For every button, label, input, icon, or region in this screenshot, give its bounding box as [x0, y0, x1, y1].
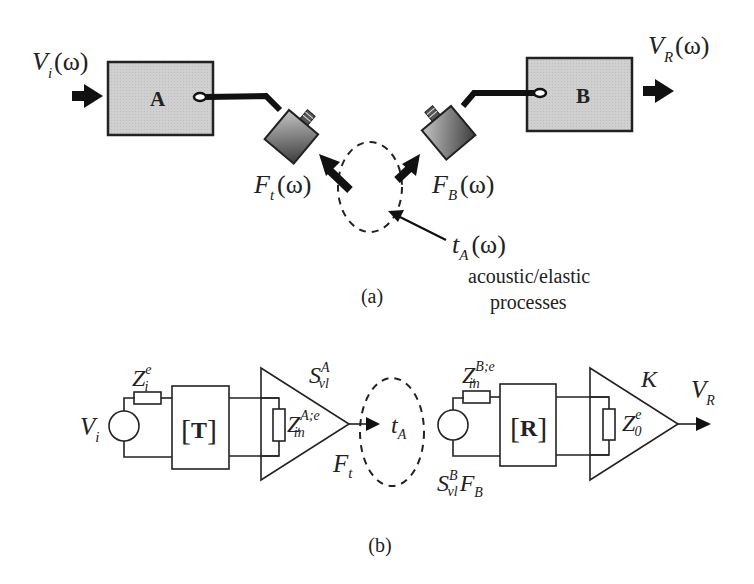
source-vi-label: Vi: [80, 413, 99, 445]
r-matrix-label: [R]: [510, 411, 547, 444]
impedance-z0-label: Ze0: [622, 407, 642, 439]
transfer-pointer-arrow-icon: [388, 210, 446, 240]
force-ft-label: Ft: [332, 450, 353, 481]
force-t-label: Ft(ω): [253, 170, 312, 203]
impedance-zi-label: Zei: [132, 362, 152, 394]
panel-b-labels: Vi Zei [T] ZA;ein SAvl Ft tA ZB;ein: [80, 359, 715, 557]
transfer-function-label: tA(ω): [452, 230, 506, 263]
sensitivity-svl-a-label: SAvl: [309, 360, 330, 391]
output-arrow-icon: [643, 79, 674, 103]
impedance-zin-a-label: ZA;ein: [287, 408, 320, 440]
block-b-label: B: [576, 84, 590, 108]
cable-b: [463, 93, 534, 106]
input-arrow-icon: [72, 84, 103, 108]
input-voltage-label: Vi(ω): [32, 47, 89, 81]
vr-output-arrow-icon: [696, 417, 711, 431]
panel-b-caption: (b): [368, 534, 391, 557]
block-a-label: A: [150, 87, 166, 111]
force-b-label: FB(ω): [431, 170, 495, 203]
process-description-line2: processes: [490, 291, 567, 314]
resistor-zin-b-icon: [463, 391, 490, 403]
figure-canvas: Vi(ω) A B: [0, 0, 754, 584]
voltage-source-vi-icon: [109, 411, 139, 441]
connector-a: [194, 93, 206, 101]
panel-a-caption: (a): [361, 285, 383, 308]
ft-output-arrow-icon: [366, 417, 380, 431]
output-voltage-label: VR(ω): [648, 31, 710, 65]
resistor-zin-a-icon: [273, 409, 285, 441]
output-vr-label: VR: [691, 376, 715, 408]
gain-k-label: K: [640, 366, 659, 392]
connector-b: [534, 89, 546, 97]
t-matrix-label: [T]: [181, 413, 217, 446]
panel-a: Vi(ω) A B: [32, 31, 710, 314]
force-t-arrow-icon: [319, 154, 350, 190]
transfer-ta-label: tA: [391, 412, 407, 442]
resistor-z0-icon: [603, 409, 615, 440]
process-description-line1: acoustic/elastic: [468, 265, 590, 287]
sensitivity-svl-b-label: SBvlFB: [437, 468, 483, 500]
cable-a: [206, 96, 280, 110]
voltage-source-svl-icon: [438, 410, 468, 440]
impedance-zin-b-label: ZB;ein: [462, 359, 495, 391]
force-b-arrow-icon: [397, 154, 420, 180]
sensor-t-icon: [265, 101, 326, 164]
